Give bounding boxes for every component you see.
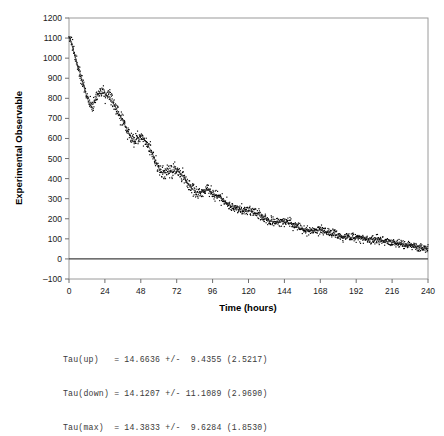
x-axis-ticks: 024487296120144168192216240 [67, 279, 436, 296]
data-point [124, 121, 125, 122]
data-point [187, 179, 188, 180]
data-point [233, 209, 234, 210]
data-point [279, 220, 280, 221]
data-point [99, 95, 100, 96]
data-point [291, 222, 292, 223]
data-point [211, 185, 212, 186]
data-point [100, 89, 101, 90]
data-point [427, 246, 428, 247]
data-point [127, 133, 128, 134]
data-point [265, 215, 266, 216]
data-point [229, 208, 230, 209]
data-point [220, 194, 221, 195]
data-point [320, 227, 321, 228]
data-point [271, 215, 272, 216]
data-point [205, 186, 206, 187]
data-point [253, 213, 254, 214]
data-point [90, 96, 91, 97]
data-point [72, 39, 73, 40]
data-point [404, 241, 405, 242]
data-point [162, 174, 163, 175]
data-point [152, 156, 153, 157]
data-point [135, 141, 136, 142]
data-point [112, 105, 113, 106]
data-point [143, 145, 144, 146]
data-point [214, 196, 215, 197]
data-point [189, 180, 190, 181]
data-point [377, 237, 378, 238]
data-point [342, 238, 343, 239]
data-point [318, 226, 319, 227]
data-point [89, 100, 90, 101]
data-point [85, 88, 86, 89]
data-point [214, 201, 215, 202]
data-point [361, 236, 362, 237]
data-point [193, 196, 194, 197]
data-point [147, 147, 148, 148]
data-point [299, 223, 300, 224]
data-point [150, 145, 151, 146]
data-point [181, 178, 182, 179]
data-point [101, 95, 102, 96]
data-point [251, 209, 252, 210]
data-point [146, 138, 147, 139]
data-point [122, 114, 123, 115]
data-point [169, 173, 170, 174]
data-point [333, 235, 334, 236]
data-point [260, 212, 261, 213]
data-point [127, 139, 128, 140]
data-point [252, 208, 253, 209]
data-point [315, 232, 316, 233]
data-point [187, 187, 188, 188]
data-point [183, 179, 184, 180]
data-point [346, 234, 347, 235]
data-point [236, 205, 237, 206]
data-point [213, 194, 214, 195]
data-point [373, 238, 374, 239]
data-point [306, 235, 307, 236]
data-point [332, 234, 333, 235]
data-point [196, 189, 197, 190]
data-point [95, 102, 96, 103]
data-point [317, 233, 318, 234]
data-point [285, 224, 286, 225]
data-point [274, 219, 275, 220]
data-point [149, 154, 150, 155]
data-point [376, 241, 377, 242]
data-point [228, 205, 229, 206]
data-point [403, 242, 404, 243]
data-point [318, 227, 319, 228]
data-point [258, 212, 259, 213]
data-point [201, 191, 202, 192]
x-tick-label: 144 [277, 286, 291, 296]
data-point [268, 218, 269, 219]
x-tick-label: 24 [100, 286, 110, 296]
y-tick-label: 300 [48, 194, 62, 204]
data-point [266, 222, 267, 223]
data-point [79, 74, 80, 75]
data-point [331, 230, 332, 231]
data-point [169, 168, 170, 169]
data-point [172, 175, 173, 176]
data-point [197, 196, 198, 197]
data-point [81, 84, 82, 85]
data-point [110, 92, 111, 93]
data-point [313, 232, 314, 233]
data-point [393, 244, 394, 245]
data-point [257, 210, 258, 211]
data-point [273, 225, 274, 226]
y-tick-label: 200 [48, 214, 62, 224]
data-point [93, 110, 94, 111]
data-point [204, 189, 205, 190]
data-point [207, 187, 208, 188]
data-point [249, 207, 250, 208]
data-point [87, 93, 88, 94]
data-point [270, 224, 271, 225]
y-tick-label: 800 [48, 93, 62, 103]
data-point [360, 243, 361, 244]
data-point [171, 166, 172, 167]
data-point [366, 237, 367, 238]
data-point [357, 236, 358, 237]
data-point [287, 218, 288, 219]
